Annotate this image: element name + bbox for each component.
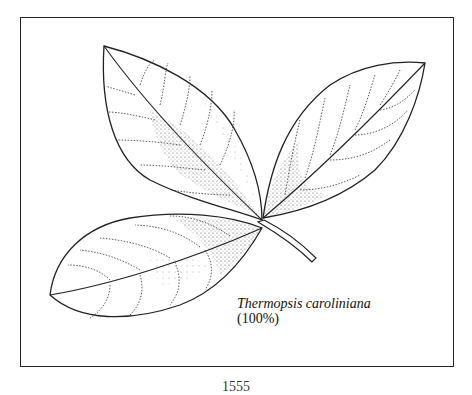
scale-label: (100%) [237,311,371,326]
leaflet-bottom [50,214,262,318]
species-name: Thermopsis caroliniana [237,296,371,311]
page-number: 1555 [222,379,250,395]
leaflet-right [263,62,425,218]
leaf-stem [258,220,316,262]
leaflet-top [103,46,262,220]
figure-caption: Thermopsis caroliniana (100%) [237,296,371,326]
